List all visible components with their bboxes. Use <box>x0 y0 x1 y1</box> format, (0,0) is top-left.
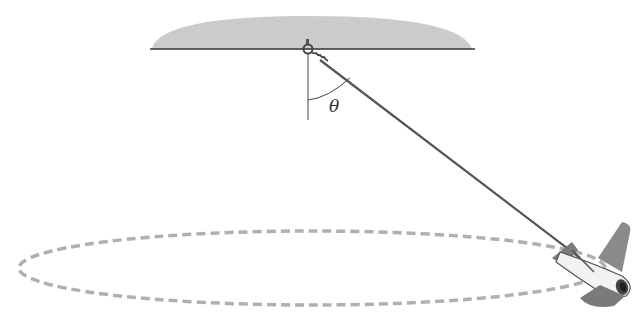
string <box>320 60 580 258</box>
angle-label: θ <box>329 96 339 116</box>
toy-airplane-icon <box>552 222 630 307</box>
conical-pendulum-diagram <box>0 0 638 335</box>
circular-path <box>19 231 605 305</box>
ceiling <box>150 16 475 49</box>
